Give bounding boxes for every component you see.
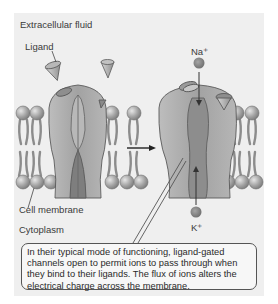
ligand-leader (52, 51, 56, 62)
callout-text: In their typical mode of functioning, li… (27, 247, 237, 291)
k-label: K⁺ (191, 223, 202, 233)
na-ion (194, 58, 205, 69)
closed-channel (49, 85, 107, 198)
explanation-callout: In their typical mode of functioning, li… (21, 243, 257, 290)
ligand-label: Ligand (25, 42, 54, 52)
cell-membrane-label: Cell membrane (19, 205, 83, 215)
k-ion (191, 207, 202, 218)
cytoplasm-label: Cytoplasm (19, 225, 64, 235)
extracellular-fluid-label: Extracellular fluid (20, 20, 92, 30)
na-label: Na⁺ (191, 47, 208, 57)
open-channel (159, 80, 237, 198)
ligand-cones (44, 60, 114, 82)
